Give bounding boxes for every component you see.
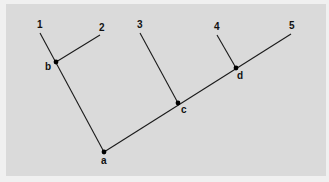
node-dot-a [102,150,107,155]
figure-frame: 12345bdca [0,0,329,182]
label-1: 1 [37,19,43,30]
label-b: b [45,61,51,72]
node-dot-c [176,101,181,106]
branch-line-5-a [104,34,291,152]
label-d: d [237,70,243,81]
label-2: 2 [99,22,105,33]
node-dot-b [54,60,59,65]
label-c: c [181,104,187,115]
cladogram-svg: 12345bdca [0,0,329,182]
branch-line-3-c [140,33,178,103]
branch-line-2-b [56,35,100,62]
branch-line-4-d [217,35,236,68]
label-5: 5 [289,20,295,31]
label-a: a [101,155,107,166]
label-3: 3 [137,19,143,30]
label-4: 4 [214,21,220,32]
branch-line-1-a [40,33,104,152]
